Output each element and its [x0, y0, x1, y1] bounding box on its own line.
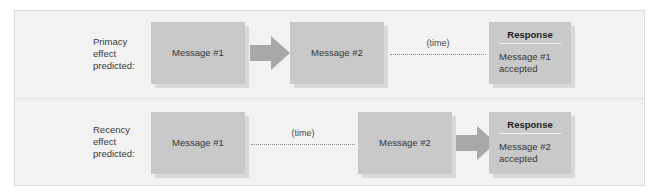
message-box-label: Message #2 — [379, 137, 431, 149]
message-box-label: Message #1 — [172, 47, 224, 59]
time-label: (time) — [251, 128, 355, 139]
response-title: Response — [499, 29, 561, 44]
response-box-recency: Response Message #2 accepted — [489, 112, 571, 174]
message-box-primacy-second: Message #2 — [290, 22, 384, 84]
response-box-primacy: Response Message #1 accepted — [489, 22, 571, 84]
response-title: Response — [499, 119, 561, 134]
row-label-primacy: Primacy effect predicted: — [93, 36, 155, 73]
flow-arrow-primacy — [250, 35, 290, 71]
diagram-figure: Primacy effect predicted: Message #1 Mes… — [0, 0, 659, 196]
time-label: (time) — [390, 38, 486, 49]
time-dotted-line — [390, 54, 486, 55]
message-box-label: Message #2 — [311, 47, 363, 59]
message-box-recency-second: Message #2 — [358, 112, 452, 174]
row-divider — [15, 98, 644, 99]
response-body: Message #1 accepted — [499, 51, 561, 76]
response-body: Message #2 accepted — [499, 141, 561, 166]
message-box-label: Message #1 — [172, 137, 224, 149]
time-dotted-line — [251, 144, 355, 145]
message-box-primacy-first: Message #1 — [151, 22, 245, 84]
row-label-recency: Recency effect predicted: — [93, 124, 155, 161]
message-box-recency-first: Message #1 — [151, 112, 245, 174]
